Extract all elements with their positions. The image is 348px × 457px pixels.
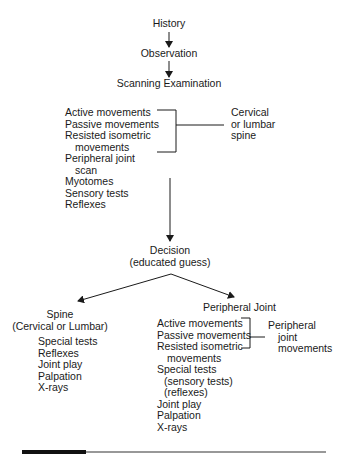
peripheral-item: Active movements: [157, 318, 251, 330]
node-history: History: [139, 18, 199, 30]
node-decision: Decision (educated guess): [110, 245, 230, 268]
label-line: Cervical: [231, 107, 275, 119]
peripheral-item: Special tests: [157, 364, 251, 376]
node-scanning-examination: Scanning Examination: [109, 78, 229, 90]
spine-item: Special tests: [38, 336, 98, 348]
spine-subtitle: (Cervical or Lumbar): [10, 321, 110, 333]
scan-bracket-label: Cervical or lumbar spine: [231, 107, 275, 142]
label-line: movements: [268, 343, 332, 355]
scan-item: Resisted isometric: [65, 130, 159, 142]
scan-item-list: Active movements Passive movements Resis…: [65, 107, 159, 211]
spine-item: X-rays: [38, 382, 98, 394]
peripheral-item: X-rays: [157, 422, 251, 434]
scan-item: Reflexes: [65, 199, 159, 211]
scan-item: Peripheral joint: [65, 153, 159, 165]
arrow-decision-peripheral: [171, 274, 234, 297]
scan-item: Myotomes: [65, 176, 159, 188]
spine-item-list: Special tests Reflexes Joint play Palpat…: [38, 336, 98, 394]
node-peripheral-joint: Peripheral Joint: [203, 302, 276, 314]
peripheral-bracket-label: Peripheral joint movements: [268, 320, 332, 355]
peripheral-item: (reflexes): [157, 387, 251, 399]
node-spine: Spine (Cervical or Lumbar): [10, 309, 110, 332]
scan-bracket: [157, 110, 176, 152]
bottom-rule-bar: [22, 450, 86, 454]
peripheral-item: Palpation: [157, 410, 251, 422]
peripheral-item: Resisted isometric: [157, 341, 251, 353]
arrow-decision-spine: [78, 274, 171, 301]
label-line: spine: [231, 130, 275, 142]
spine-item: Joint play: [38, 359, 98, 371]
decision-subtitle: (educated guess): [110, 257, 230, 269]
spine-title: Spine: [10, 309, 110, 321]
peripheral-item-list: Active movements Passive movements Resis…: [157, 318, 251, 433]
label-line: Peripheral: [268, 320, 332, 332]
decision-title: Decision: [110, 245, 230, 257]
node-observation: Observation: [129, 48, 209, 60]
scan-item: Active movements: [65, 107, 159, 119]
